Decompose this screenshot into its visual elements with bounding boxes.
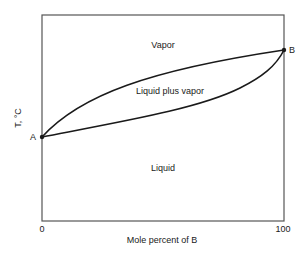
x-tick-100: 100 [275,224,290,234]
region-liquid-label: Liquid [151,163,175,173]
region-vapor-label: Vapor [151,40,174,50]
y-axis-label: T, °C [13,108,23,128]
point-b-label: B [289,45,295,55]
phase-diagram-plot [0,0,305,254]
region-two-phase-label: Liquid plus vapor [136,86,204,96]
point-a-label: A [30,132,36,142]
x-axis-label: Mole percent of B [127,235,198,245]
x-tick-0: 0 [39,224,44,234]
phase-diagram: A B Vapor Liquid plus vapor Liquid 0 100… [0,0,305,254]
point-a-marker [40,135,44,139]
point-b-marker [282,48,286,52]
